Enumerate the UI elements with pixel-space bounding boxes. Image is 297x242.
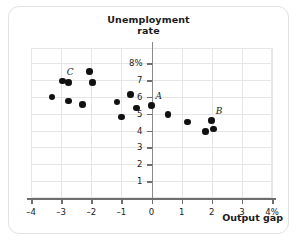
plot-area: 12345678%–4–3–2–101234%ABC	[31, 48, 272, 198]
y-axis-tick	[147, 97, 152, 99]
data-point	[89, 79, 96, 86]
y-axis-tick-label: 4	[121, 126, 143, 136]
x-axis-tick	[272, 199, 274, 204]
data-point	[133, 105, 140, 112]
x-axis-tick-label: –2	[79, 207, 103, 217]
data-point	[202, 128, 209, 135]
gridline-vertical	[31, 48, 32, 198]
gridline-vertical	[272, 48, 273, 198]
data-point	[118, 114, 125, 121]
x-axis-tick-label: 1	[170, 207, 194, 217]
y-axis-tick-label: 8%	[121, 58, 143, 68]
y-axis-tick-label: 2	[121, 159, 143, 169]
chart-title-line-2: rate	[0, 25, 297, 36]
x-axis-tick-label: 0	[140, 207, 164, 217]
x-axis-tick	[121, 199, 123, 204]
point-label-b: B	[216, 106, 223, 116]
gridline-vertical	[182, 48, 183, 198]
x-axis-tick-label: –4	[19, 207, 43, 217]
y-axis-tick	[147, 80, 152, 82]
x-axis-tick-label: –1	[109, 207, 133, 217]
data-point	[79, 101, 86, 108]
y-axis-tick	[147, 164, 152, 166]
x-axis-tick-label: 3	[230, 207, 254, 217]
gridline-vertical	[61, 48, 62, 198]
x-axis-tick-label: 4%	[260, 207, 284, 217]
data-point	[208, 117, 215, 124]
y-axis-tick	[147, 181, 152, 183]
data-point	[148, 102, 155, 109]
x-axis-tick-label: 2	[200, 207, 224, 217]
x-axis-tick-label: –3	[49, 207, 73, 217]
chart-title-line-1: Unemployment	[0, 14, 297, 25]
x-axis-tick	[182, 199, 184, 204]
data-point	[65, 79, 72, 86]
point-label-a: A	[156, 91, 163, 101]
point-label-c: C	[67, 67, 74, 77]
y-axis-tick-label: 1	[121, 176, 143, 186]
chart-title: Unemployment rate	[0, 14, 297, 36]
x-axis-tick	[61, 199, 63, 204]
x-axis-tick	[242, 199, 244, 204]
data-point	[127, 91, 134, 98]
gridline-vertical	[242, 48, 243, 198]
data-point	[86, 68, 93, 75]
y-axis-line	[152, 42, 154, 204]
x-axis-tick	[31, 199, 33, 204]
y-axis-tick-label: 3	[121, 142, 143, 152]
x-axis-tick	[212, 199, 214, 204]
x-axis-tick	[152, 199, 154, 204]
y-axis-tick	[147, 147, 152, 149]
y-axis-tick	[147, 131, 152, 133]
data-point	[210, 126, 217, 133]
y-axis-tick	[147, 63, 152, 65]
y-axis-tick-label: 7	[121, 75, 143, 85]
y-axis-tick	[147, 114, 152, 116]
x-axis-tick	[91, 199, 93, 204]
chart-figure: Unemployment rate Output gap 12345678%–4…	[0, 0, 297, 242]
